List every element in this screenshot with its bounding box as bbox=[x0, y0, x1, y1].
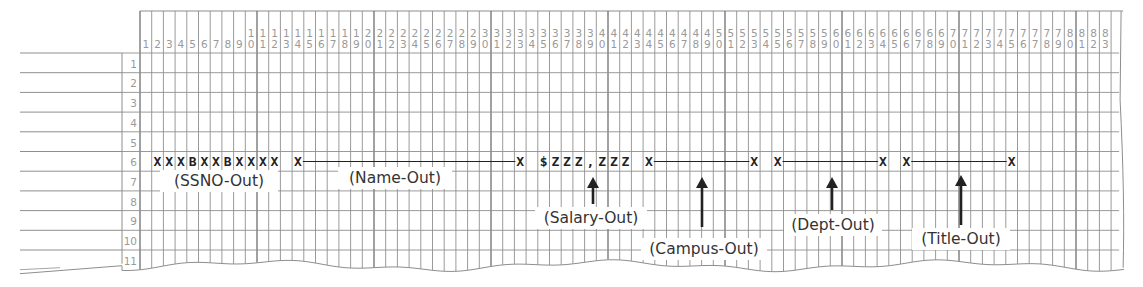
column-number: 9 bbox=[704, 38, 711, 50]
column-number: 1 bbox=[1079, 38, 1086, 50]
column-number: 1 bbox=[962, 38, 969, 50]
column-number-tens: 6 bbox=[903, 27, 910, 39]
column-number: 7 bbox=[447, 38, 454, 50]
ssno-picture-char: X bbox=[210, 155, 222, 169]
column-number-tens: 6 bbox=[856, 27, 863, 39]
salary-picture-char: Z bbox=[596, 155, 608, 169]
salary-picture-char: Z bbox=[550, 155, 562, 169]
column-number-tens: 1 bbox=[306, 27, 313, 39]
column-number: 7 bbox=[681, 38, 688, 50]
column-number: 5 bbox=[774, 38, 781, 50]
column-number: 1 bbox=[143, 38, 150, 50]
right-edge bbox=[1120, 11, 1124, 268]
column-number: 4 bbox=[763, 38, 770, 50]
column-number-tens: 3 bbox=[575, 27, 582, 39]
column-number-tens: 7 bbox=[997, 27, 1004, 39]
column-number: 7 bbox=[915, 38, 922, 50]
column-number: 8 bbox=[809, 38, 816, 50]
column-number-tens: 6 bbox=[938, 27, 945, 39]
column-number: 3 bbox=[517, 38, 524, 50]
column-number-tens: 1 bbox=[295, 27, 302, 39]
left-tear-edge bbox=[20, 266, 122, 274]
column-number: 3 bbox=[985, 38, 992, 50]
column-number-tens: 2 bbox=[400, 27, 407, 39]
salary-picture-char: Z bbox=[620, 155, 632, 169]
column-number: 6 bbox=[903, 38, 910, 50]
column-number: 6 bbox=[435, 38, 442, 50]
column-number: 8 bbox=[575, 38, 582, 50]
column-number-tens: 1 bbox=[260, 27, 267, 39]
column-number: 9 bbox=[353, 38, 360, 50]
column-number-tens: 5 bbox=[751, 27, 758, 39]
column-number-tens: 3 bbox=[482, 27, 489, 39]
column-number: 1 bbox=[728, 38, 735, 50]
column-number: 2 bbox=[1090, 38, 1097, 50]
column-number: 8 bbox=[458, 38, 465, 50]
salary-picture-char: Z bbox=[573, 155, 585, 169]
column-number: 9 bbox=[587, 38, 594, 50]
column-number-tens: 7 bbox=[973, 27, 980, 39]
column-number: 3 bbox=[1102, 38, 1109, 50]
column-number-tens: 6 bbox=[915, 27, 922, 39]
row-number: 4 bbox=[130, 117, 137, 129]
column-number-tens: 7 bbox=[1043, 27, 1050, 39]
column-number-tens: 2 bbox=[470, 27, 477, 39]
column-number: 7 bbox=[1032, 38, 1039, 50]
column-number: 0 bbox=[248, 38, 255, 50]
column-number-tens: 3 bbox=[494, 27, 501, 39]
column-number: 2 bbox=[856, 38, 863, 50]
row-number: 6 bbox=[130, 156, 137, 168]
column-number-tens: 4 bbox=[704, 27, 711, 39]
column-number-tens: 8 bbox=[1079, 27, 1086, 39]
column-number: 4 bbox=[880, 38, 887, 50]
column-number-tens: 4 bbox=[611, 27, 618, 39]
ssno-picture-char: X bbox=[245, 155, 257, 169]
column-number-tens: 5 bbox=[763, 27, 770, 39]
title-picture-char: X bbox=[1006, 155, 1018, 169]
salary-picture-char: , bbox=[585, 155, 597, 169]
ssno-picture-char: X bbox=[257, 155, 269, 169]
column-number-tens: 2 bbox=[388, 27, 395, 39]
ssno-out-label: (SSNO-Out) bbox=[160, 170, 278, 192]
column-number-tens: 4 bbox=[681, 27, 688, 39]
column-number: 2 bbox=[388, 38, 395, 50]
column-number-tens: 6 bbox=[845, 27, 852, 39]
column-number-tens: 4 bbox=[599, 27, 606, 39]
column-number-tens: 3 bbox=[540, 27, 547, 39]
column-number: 3 bbox=[166, 38, 173, 50]
column-number-tens: 3 bbox=[529, 27, 536, 39]
row-number: 10 bbox=[124, 235, 137, 247]
column-number-tens: 5 bbox=[809, 27, 816, 39]
column-number: 5 bbox=[891, 38, 898, 50]
column-number-tens: 2 bbox=[447, 27, 454, 39]
column-number: 0 bbox=[1067, 38, 1074, 50]
name-picture-char: X bbox=[514, 155, 526, 169]
salary-picture-char: Z bbox=[561, 155, 573, 169]
column-number-tens: 6 bbox=[880, 27, 887, 39]
column-number: 0 bbox=[833, 38, 840, 50]
salary-picture-char: Z bbox=[608, 155, 620, 169]
title-picture-char: X bbox=[901, 155, 913, 169]
ssno-picture-char: X bbox=[234, 155, 246, 169]
column-number-tens: 4 bbox=[634, 27, 641, 39]
column-number: 3 bbox=[634, 38, 641, 50]
row-numbers: 1234567891011 bbox=[124, 58, 138, 267]
column-number: 8 bbox=[341, 38, 348, 50]
column-number-tens: 6 bbox=[868, 27, 875, 39]
column-number: 6 bbox=[786, 38, 793, 50]
column-number: 6 bbox=[318, 38, 325, 50]
row-number: 2 bbox=[130, 77, 137, 89]
column-number: 7 bbox=[564, 38, 571, 50]
ssno-picture-char: X bbox=[163, 155, 175, 169]
ssno-picture-char: X bbox=[199, 155, 211, 169]
column-number: 9 bbox=[470, 38, 477, 50]
column-number-tens: 2 bbox=[365, 27, 372, 39]
column-number-tens: 7 bbox=[1008, 27, 1015, 39]
column-number-tens: 1 bbox=[271, 27, 278, 39]
column-number-tens: 5 bbox=[821, 27, 828, 39]
torn-paper-edge bbox=[20, 260, 1125, 287]
column-number-tens: 5 bbox=[798, 27, 805, 39]
column-number-tens: 4 bbox=[622, 27, 629, 39]
row-number: 11 bbox=[124, 255, 137, 267]
column-number: 4 bbox=[412, 38, 419, 50]
